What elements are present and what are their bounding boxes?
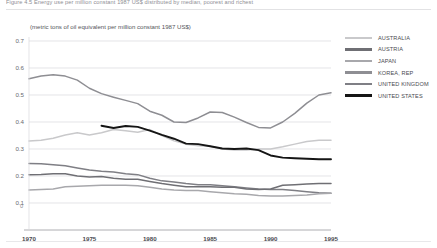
- legend-swatch-icon: [345, 83, 372, 86]
- legend-label: KOREA, REP: [378, 70, 413, 76]
- legend-swatch-icon: [345, 37, 372, 40]
- legend-label: JAPAN: [378, 58, 396, 64]
- y-tick-label: 0.6: [4, 64, 24, 71]
- series-line-united-kingdom: [29, 164, 331, 194]
- legend-swatch-icon: [345, 60, 372, 63]
- legend-swatch-icon: [345, 94, 372, 97]
- legend-item[interactable]: AUSTRALIA: [345, 32, 437, 44]
- legend-swatch-icon: [345, 48, 372, 51]
- legend-label: UNITED STATES: [378, 93, 423, 99]
- legend-item[interactable]: KOREA, REP: [345, 67, 437, 79]
- series-lines: [29, 75, 331, 196]
- legend-label: AUSTRIA: [378, 46, 403, 52]
- chart-legend: AUSTRALIAAUSTRIAJAPANKOREA, REPUNITED KI…: [345, 32, 437, 102]
- legend-swatch-icon: [345, 71, 372, 74]
- y-tick-label: 0.7: [4, 37, 24, 44]
- legend-item[interactable]: UNITED STATES: [345, 90, 437, 102]
- legend-item[interactable]: JAPAN: [345, 55, 437, 67]
- legend-label: UNITED KINGDOM: [378, 81, 429, 87]
- series-line-korea-rep: [29, 75, 331, 128]
- y-tick-label: 0.5: [4, 91, 24, 98]
- series-line-australia: [29, 130, 331, 151]
- legend-item[interactable]: UNITED KINGDOM: [345, 78, 437, 90]
- series-line-japan: [29, 185, 331, 196]
- y-tick-label: 0.3: [4, 145, 24, 152]
- y-axis-zero-label: 0: [20, 203, 23, 209]
- legend-item[interactable]: AUSTRIA: [345, 44, 437, 56]
- figure-container: Figure 4.5 Energy use per million consta…: [0, 0, 437, 248]
- series-line-united-states: [101, 126, 331, 159]
- y-tick-label: 0.4: [4, 118, 24, 125]
- legend-label: AUSTRALIA: [378, 35, 410, 41]
- y-tick-label: 0.2: [4, 172, 24, 179]
- footer-divider: [6, 241, 431, 242]
